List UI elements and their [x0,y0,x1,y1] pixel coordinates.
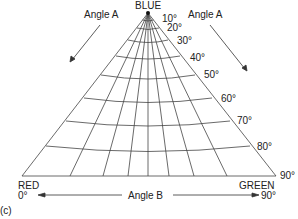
tick-70: 70° [237,115,252,126]
tick-90: 90° [280,170,295,181]
vertex-label-blue: BLUE [135,0,161,11]
angle-a-label-right: Angle A [188,9,222,20]
tick-60: 60° [221,93,236,104]
angle-a-left-arrow-icon [72,25,100,60]
panel-label: (c) [0,205,12,216]
angle-a-label-left: Angle A [84,9,118,20]
angle-b-label: Angle B [128,190,163,201]
angle-a-right-arrow-icon [210,25,245,69]
angle-b-start: 0° [18,190,28,201]
tick-50: 50° [204,69,219,80]
tick-80: 80° [257,141,272,152]
tick-40: 40° [190,52,205,63]
tick-30: 30° [177,35,192,46]
tick-20: 20° [167,22,182,33]
apex-dot-icon [146,11,150,15]
angle-b-end: 90° [261,190,276,201]
